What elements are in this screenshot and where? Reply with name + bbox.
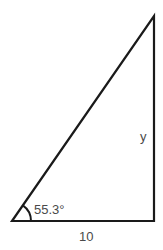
base-label: 10 — [79, 229, 93, 244]
triangle-shape — [12, 16, 154, 221]
angle-label: 55.3° — [34, 202, 65, 217]
right-triangle-diagram: 55.3° 10 y — [0, 0, 163, 250]
height-label: y — [140, 129, 147, 144]
angle-arc-icon — [23, 205, 31, 221]
